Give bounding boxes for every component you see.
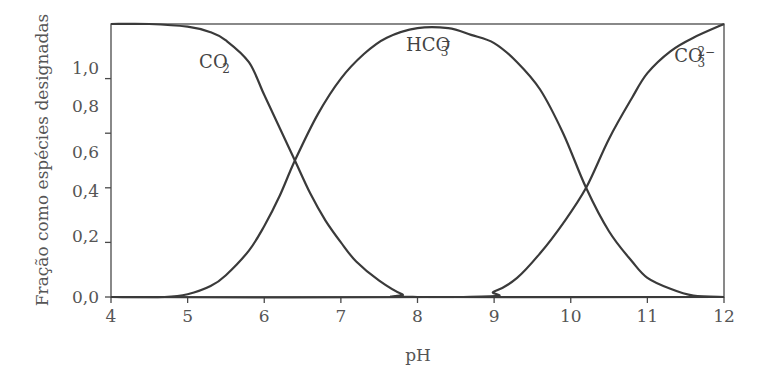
x-tick-label: 8 xyxy=(412,306,423,326)
x-tick-label: 5 xyxy=(182,306,193,326)
y-axis: 0,00,20,40,60,81,0 xyxy=(72,58,111,307)
series-labels: CO2HCO−3CO2−3 xyxy=(199,34,715,75)
x-tick-label: 7 xyxy=(335,306,346,326)
y-axis-title: Fração como espécies designadas xyxy=(32,14,52,307)
x-tick-label: 10 xyxy=(560,306,582,326)
y-tick-label: 0,0 xyxy=(72,287,99,307)
series-label: HCO−3 xyxy=(406,34,451,59)
series-label: CO2−3 xyxy=(674,45,715,70)
y-tick-label: 0,2 xyxy=(72,226,99,246)
y-tick-label: 0,4 xyxy=(72,181,99,201)
y-tick-label: 0,8 xyxy=(72,96,99,116)
x-tick-label: 12 xyxy=(713,306,735,326)
x-tick-label: 4 xyxy=(106,306,117,326)
x-tick-label: 11 xyxy=(637,306,659,326)
speciation-chart: 456789101112 0,00,20,40,60,81,0 CO2HCO−3… xyxy=(0,0,759,389)
x-axis: 456789101112 xyxy=(106,297,735,326)
x-tick-label: 9 xyxy=(489,306,500,326)
y-tick-label: 1,0 xyxy=(72,58,99,78)
x-axis-title: pH xyxy=(405,345,431,365)
x-tick-label: 6 xyxy=(259,306,270,326)
y-tick-label: 0,6 xyxy=(72,142,99,162)
series-label: CO2 xyxy=(199,51,230,76)
